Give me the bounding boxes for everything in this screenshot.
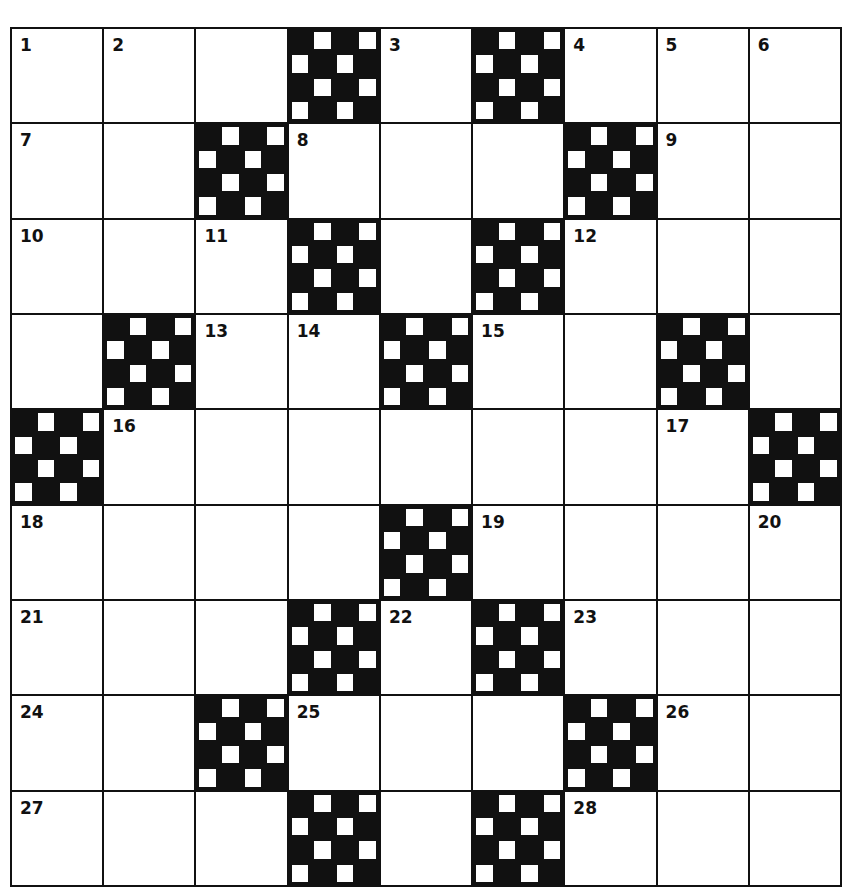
block-cell bbox=[289, 601, 379, 694]
answer-cell[interactable] bbox=[658, 601, 748, 694]
block-cell bbox=[473, 29, 563, 122]
clue-number: 14 bbox=[297, 323, 321, 340]
answer-cell[interactable] bbox=[381, 792, 471, 885]
answer-cell[interactable] bbox=[565, 315, 655, 408]
answer-cell[interactable]: 28 bbox=[565, 792, 655, 885]
answer-cell[interactable] bbox=[196, 601, 286, 694]
block-cell bbox=[289, 220, 379, 313]
answer-cell[interactable] bbox=[750, 792, 840, 885]
clue-number: 24 bbox=[20, 704, 44, 721]
answer-cell[interactable] bbox=[381, 410, 471, 503]
clue-number: 18 bbox=[20, 514, 44, 531]
block-cell bbox=[473, 220, 563, 313]
answer-cell[interactable]: 27 bbox=[12, 792, 102, 885]
checker-pattern-icon bbox=[381, 506, 471, 599]
block-cell bbox=[565, 696, 655, 789]
answer-cell[interactable]: 26 bbox=[658, 696, 748, 789]
clue-number: 17 bbox=[666, 418, 690, 435]
answer-cell[interactable] bbox=[12, 315, 102, 408]
checker-pattern-icon bbox=[473, 601, 563, 694]
answer-cell[interactable] bbox=[104, 792, 194, 885]
checker-pattern-icon bbox=[289, 220, 379, 313]
answer-cell[interactable]: 7 bbox=[12, 124, 102, 217]
answer-cell[interactable]: 13 bbox=[196, 315, 286, 408]
checker-pattern-icon bbox=[12, 410, 102, 503]
answer-cell[interactable]: 15 bbox=[473, 315, 563, 408]
answer-cell[interactable] bbox=[104, 601, 194, 694]
block-cell bbox=[565, 124, 655, 217]
answer-cell[interactable] bbox=[289, 506, 379, 599]
answer-cell[interactable] bbox=[381, 696, 471, 789]
clue-number: 23 bbox=[573, 609, 597, 626]
checker-pattern-icon bbox=[289, 29, 379, 122]
answer-cell[interactable]: 6 bbox=[750, 29, 840, 122]
answer-cell[interactable]: 18 bbox=[12, 506, 102, 599]
answer-cell[interactable] bbox=[750, 696, 840, 789]
answer-cell[interactable] bbox=[473, 696, 563, 789]
answer-cell[interactable] bbox=[196, 29, 286, 122]
answer-cell[interactable]: 1 bbox=[12, 29, 102, 122]
answer-cell[interactable] bbox=[104, 124, 194, 217]
clue-number: 11 bbox=[204, 228, 228, 245]
answer-cell[interactable]: 16 bbox=[104, 410, 194, 503]
answer-cell[interactable] bbox=[565, 410, 655, 503]
answer-cell[interactable] bbox=[750, 220, 840, 313]
clue-number: 22 bbox=[389, 609, 413, 626]
checker-pattern-icon bbox=[104, 315, 194, 408]
answer-cell[interactable]: 23 bbox=[565, 601, 655, 694]
block-cell bbox=[289, 792, 379, 885]
clue-number: 13 bbox=[204, 323, 228, 340]
checker-pattern-icon bbox=[473, 29, 563, 122]
answer-cell[interactable]: 12 bbox=[565, 220, 655, 313]
crossword-grid: 1234567891011121314151617181920212223242… bbox=[10, 27, 842, 887]
block-cell bbox=[658, 315, 748, 408]
answer-cell[interactable]: 24 bbox=[12, 696, 102, 789]
answer-cell[interactable]: 2 bbox=[104, 29, 194, 122]
answer-cell[interactable]: 21 bbox=[12, 601, 102, 694]
checker-pattern-icon bbox=[196, 696, 286, 789]
clue-number: 5 bbox=[666, 37, 678, 54]
block-cell bbox=[381, 506, 471, 599]
answer-cell[interactable] bbox=[104, 220, 194, 313]
answer-cell[interactable]: 19 bbox=[473, 506, 563, 599]
answer-cell[interactable] bbox=[196, 410, 286, 503]
checker-pattern-icon bbox=[289, 601, 379, 694]
block-cell bbox=[196, 124, 286, 217]
answer-cell[interactable] bbox=[750, 124, 840, 217]
checker-pattern-icon bbox=[565, 124, 655, 217]
answer-cell[interactable] bbox=[196, 506, 286, 599]
clue-number: 16 bbox=[112, 418, 136, 435]
answer-cell[interactable]: 17 bbox=[658, 410, 748, 503]
clue-number: 15 bbox=[481, 323, 505, 340]
answer-cell[interactable] bbox=[750, 315, 840, 408]
answer-cell[interactable]: 25 bbox=[289, 696, 379, 789]
answer-cell[interactable] bbox=[658, 506, 748, 599]
answer-cell[interactable] bbox=[381, 220, 471, 313]
answer-cell[interactable]: 4 bbox=[565, 29, 655, 122]
answer-cell[interactable]: 20 bbox=[750, 506, 840, 599]
answer-cell[interactable]: 5 bbox=[658, 29, 748, 122]
answer-cell[interactable] bbox=[196, 792, 286, 885]
block-cell bbox=[750, 410, 840, 503]
answer-cell[interactable]: 3 bbox=[381, 29, 471, 122]
answer-cell[interactable] bbox=[658, 220, 748, 313]
answer-cell[interactable] bbox=[658, 792, 748, 885]
answer-cell[interactable] bbox=[750, 601, 840, 694]
answer-cell[interactable] bbox=[104, 506, 194, 599]
answer-cell[interactable]: 8 bbox=[289, 124, 379, 217]
answer-cell[interactable]: 11 bbox=[196, 220, 286, 313]
answer-cell[interactable]: 22 bbox=[381, 601, 471, 694]
clue-number: 27 bbox=[20, 800, 44, 817]
answer-cell[interactable]: 10 bbox=[12, 220, 102, 313]
answer-cell[interactable] bbox=[289, 410, 379, 503]
answer-cell[interactable] bbox=[381, 124, 471, 217]
answer-cell[interactable]: 9 bbox=[658, 124, 748, 217]
checker-pattern-icon bbox=[196, 124, 286, 217]
answer-cell[interactable]: 14 bbox=[289, 315, 379, 408]
answer-cell[interactable] bbox=[104, 696, 194, 789]
clue-number: 28 bbox=[573, 800, 597, 817]
answer-cell[interactable] bbox=[473, 410, 563, 503]
clue-number: 12 bbox=[573, 228, 597, 245]
answer-cell[interactable] bbox=[565, 506, 655, 599]
answer-cell[interactable] bbox=[473, 124, 563, 217]
